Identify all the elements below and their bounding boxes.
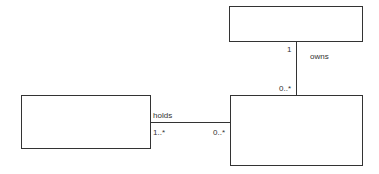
association-label-owns: owns [310,53,329,61]
class-box-top[interactable] [229,6,363,42]
association-label-holds: holds [153,112,172,120]
association-line-holds[interactable] [151,122,230,123]
class-box-bottom-right[interactable] [230,95,363,166]
class-box-left[interactable] [21,95,151,149]
association-line-owns[interactable] [296,42,297,95]
multiplicity-owns-target: 0..* [279,85,291,93]
multiplicity-holds-target: 0..* [213,129,225,137]
multiplicity-holds-source: 1..* [153,129,165,137]
multiplicity-owns-source: 1 [287,46,291,54]
